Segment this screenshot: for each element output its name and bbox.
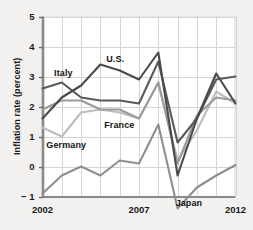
series-label-japan: Japan xyxy=(176,198,203,208)
series-label-italy: Italy xyxy=(54,68,73,78)
x-tick-label: 2007 xyxy=(122,204,156,215)
y-tick-label: 2 xyxy=(19,101,35,112)
x-tick-label: 2002 xyxy=(26,204,60,215)
inflation-rate-line-chart: Inflation rate (percent) 543210− 1 20022… xyxy=(0,0,252,230)
y-tick-label: 4 xyxy=(19,41,35,52)
y-tick-label: − 1 xyxy=(19,191,35,202)
y-tick-label: 1 xyxy=(19,131,35,142)
series-label-germany: Germany xyxy=(46,140,86,150)
y-tick-label: 5 xyxy=(19,11,35,22)
y-tick-label: 3 xyxy=(19,71,35,82)
series-label-us: U.S. xyxy=(106,54,124,64)
chart-canvas xyxy=(0,0,252,230)
x-tick-label: 2012 xyxy=(219,204,253,215)
series-label-france: France xyxy=(104,120,134,130)
y-tick-label: 0 xyxy=(19,161,35,172)
